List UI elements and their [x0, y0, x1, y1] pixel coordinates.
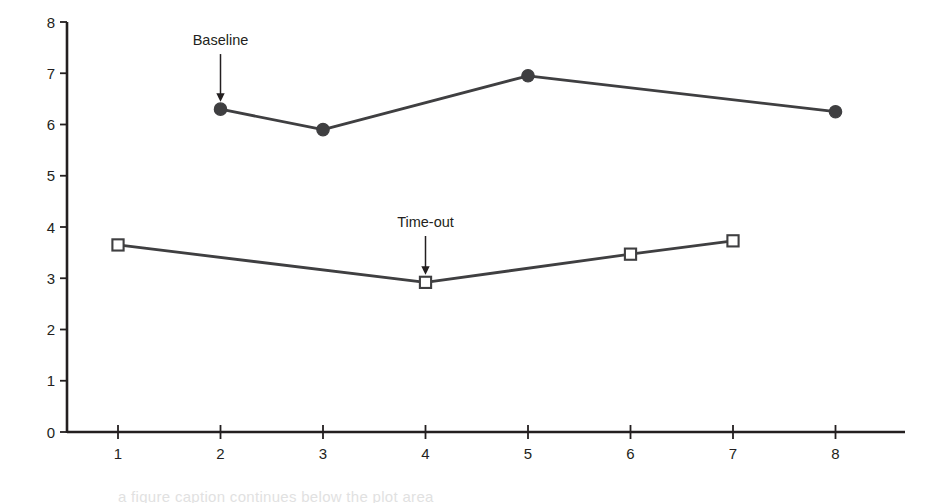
line-chart-canvas: 012345678 12345678 BaselineTime-out — [0, 0, 934, 503]
y-tick-label: 1 — [47, 372, 55, 389]
annotation-label: Time-out — [397, 214, 454, 230]
y-tick-label: 0 — [47, 424, 55, 441]
data-point-marker — [420, 277, 431, 288]
cut-off-caption: a figure caption continues below the plo… — [0, 488, 934, 503]
y-tick-label: 2 — [47, 321, 55, 338]
x-tick-label: 5 — [524, 445, 532, 462]
y-tick-label: 6 — [47, 116, 55, 133]
chart-figure: 012345678 12345678 BaselineTime-out — [0, 0, 934, 503]
y-tick-label: 4 — [47, 219, 55, 236]
data-point-marker — [522, 70, 534, 82]
x-tick-label: 6 — [626, 445, 634, 462]
y-tick-label: 7 — [47, 65, 55, 82]
x-tick-label: 2 — [216, 445, 224, 462]
x-tick-label: 7 — [729, 445, 737, 462]
x-tick-label: 3 — [319, 445, 327, 462]
x-tick-label: 1 — [114, 445, 122, 462]
data-point-marker — [829, 105, 841, 117]
data-point-marker — [625, 249, 636, 260]
annotation-label: Baseline — [193, 32, 249, 48]
y-tick-label: 5 — [47, 167, 55, 184]
chart-background — [0, 0, 934, 503]
x-tick-label: 4 — [421, 445, 429, 462]
data-point-marker — [727, 235, 738, 246]
x-tick-label: 8 — [831, 445, 839, 462]
y-tick-label: 3 — [47, 270, 55, 287]
data-point-marker — [214, 103, 226, 115]
data-point-marker — [317, 123, 329, 135]
data-point-marker — [112, 239, 123, 250]
y-tick-label: 8 — [47, 14, 55, 31]
